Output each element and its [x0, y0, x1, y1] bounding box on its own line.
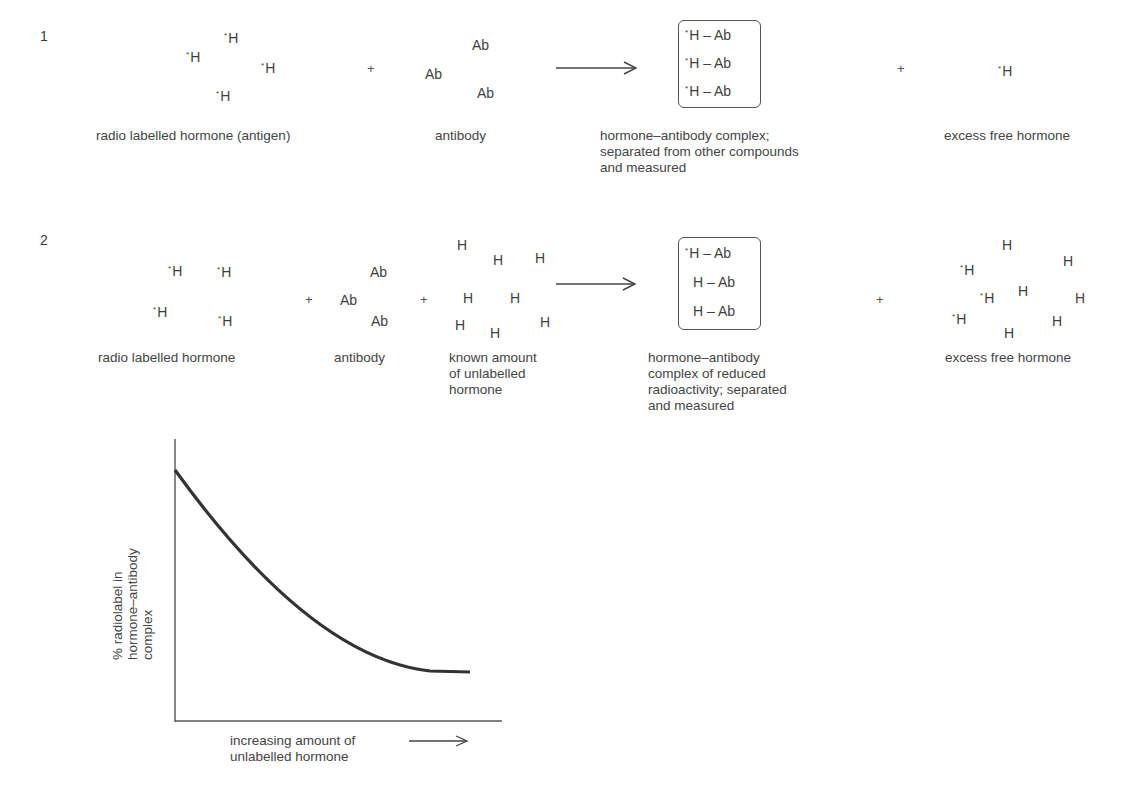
reaction-arrow: [556, 62, 636, 74]
x-axis-arrow-icon: [409, 736, 467, 746]
diagram-graphics: [0, 0, 1137, 794]
reaction-arrow: [556, 278, 635, 290]
response-curve: [175, 470, 470, 672]
y-axis-label: % radiolabel in hormone–antibody complex: [110, 548, 155, 660]
x-axis-label: increasing amount of unlabelled hormone: [230, 733, 355, 765]
